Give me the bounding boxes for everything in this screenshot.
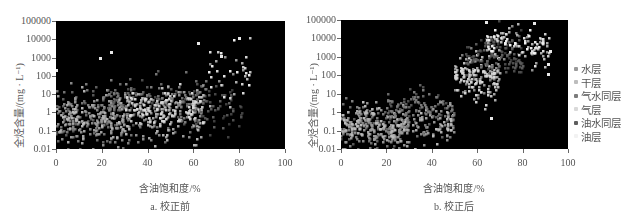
chart-legend: 水层 干层 气水同层 气层 油水同层 油层 [574,62,621,143]
x-tick-mark [432,149,433,153]
y-tick-label: 0.1 [286,126,336,136]
x-tick-label: 20 [371,158,401,168]
y-tick-label: 100000 [1,16,51,26]
chart-panel-a: 全烃含量/(mg · L⁻¹) 1000001000010001001010.1… [0,0,300,217]
y-tick-mark [52,76,56,77]
y-tick-label: 10 [1,89,51,99]
x-tick-mark [386,149,387,153]
x-tick-label: 40 [133,158,163,168]
y-tick-label: 1 [286,107,336,117]
y-tick-mark [337,75,341,76]
y-tick-mark [337,112,341,113]
x-tick-label: 0 [41,158,71,168]
y-tick-label: 0.01 [1,144,51,154]
y-tick-label: 10 [286,89,336,99]
x-tick-label: 100 [270,158,300,168]
plot-area-b [341,20,568,149]
legend-marker-icon [574,94,578,98]
legend-item-dry: 干层 [574,76,621,90]
legend-item-gas-water: 气水同层 [574,89,621,103]
y-tick-label: 1 [1,107,51,117]
y-tick-label: 100 [286,70,336,80]
x-tick-mark [239,149,240,153]
legend-item-water: 水层 [574,62,621,76]
y-tick-label: 10000 [1,34,51,44]
legend-label: 油层 [581,129,601,144]
y-tick-label: 10000 [286,33,336,43]
plot-area-a [56,21,285,149]
x-tick-label: 60 [462,158,492,168]
x-tick-mark [193,149,194,153]
caption-b: b. 校正后 [354,198,554,213]
x-tick-mark [523,149,524,153]
legend-item-gas: 气层 [574,103,621,117]
y-tick-mark [52,58,56,59]
legend-marker-icon [574,134,578,138]
y-tick-label: 100000 [286,15,336,25]
y-tick-mark [52,112,56,113]
legend-marker-icon [574,67,578,71]
y-tick-mark [337,131,341,132]
y-tick-label: 1000 [286,52,336,62]
y-tick-mark [52,39,56,40]
y-tick-mark [337,57,341,58]
legend-marker-icon [574,121,578,125]
x-tick-label: 80 [224,158,254,168]
y-tick-label: 0.01 [286,144,336,154]
x-tick-mark [477,149,478,153]
y-tick-label: 100 [1,71,51,81]
x-tick-mark [148,149,149,153]
caption-a: a. 校正前 [70,198,270,213]
legend-marker-icon [574,107,578,111]
y-tick-mark [337,94,341,95]
x-tick-mark [341,149,342,153]
scatter-points-b [341,20,568,149]
y-tick-mark [52,131,56,132]
x-tick-label: 0 [326,158,356,168]
x-tick-label: 40 [417,158,447,168]
legend-item-oil-water: 油水同层 [574,116,621,130]
x-tick-label: 80 [508,158,538,168]
legend-marker-icon [574,80,578,84]
legend-item-oil: 油层 [574,130,621,144]
y-tick-mark [52,94,56,95]
y-tick-label: 1000 [1,53,51,63]
x-tick-mark [102,149,103,153]
scatter-points-a [56,21,285,149]
x-tick-label: 20 [87,158,117,168]
x-tick-label: 60 [178,158,208,168]
x-tick-label: 100 [553,158,583,168]
y-tick-label: 0.1 [1,126,51,136]
x-axis-label-b: 含油饱和度/% [354,180,554,195]
x-axis-label-a: 含油饱和度/% [70,180,270,195]
y-tick-mark [337,38,341,39]
y-tick-mark [52,21,56,22]
x-tick-mark [56,149,57,153]
y-tick-mark [337,20,341,21]
x-tick-mark [568,149,569,153]
